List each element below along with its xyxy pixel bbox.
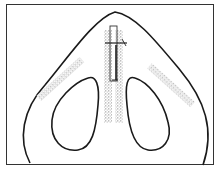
right-alar-graft: [147, 63, 195, 107]
left-alar-graft: [37, 57, 85, 101]
nasal-base-diagram: [0, 0, 220, 175]
right-nostril: [126, 77, 169, 150]
left-nostril: [52, 77, 99, 150]
columella-graft-left: [104, 30, 112, 123]
